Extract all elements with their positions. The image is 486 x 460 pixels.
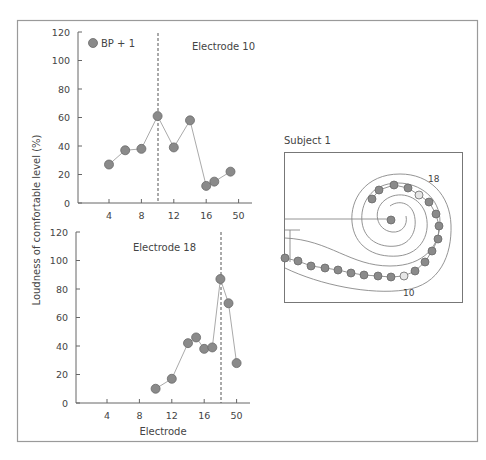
chart-electrode-18: 020406080100120 48121650 Electrode 18 El… — [50, 227, 250, 438]
y-tick-label: 100 — [50, 255, 68, 266]
data-point — [210, 177, 219, 186]
electrode-contact — [432, 210, 440, 218]
data-point — [153, 112, 162, 121]
data-point — [186, 116, 195, 125]
legend-marker — [89, 39, 98, 48]
cochlea-diagram: Subject 1 18 10 — [281, 135, 463, 303]
electrode-contact — [434, 235, 442, 243]
x-tick-label: 50 — [233, 210, 245, 221]
data-point — [105, 160, 114, 169]
y-tick-label: 60 — [56, 312, 68, 323]
y-tick-label: 0 — [62, 398, 68, 409]
electrode-contact — [411, 267, 419, 275]
electrode-array — [281, 181, 443, 281]
electrode-contact — [281, 254, 289, 262]
data-point — [192, 333, 201, 342]
y-tick-label: 20 — [56, 369, 68, 380]
data-series — [105, 112, 236, 191]
data-point — [169, 143, 178, 152]
electrode-contact — [404, 184, 412, 192]
electrode-contact — [368, 195, 376, 203]
y-tick-label: 60 — [58, 112, 70, 123]
electrode-contact — [294, 257, 302, 265]
figure-frame — [18, 21, 478, 442]
electrode-contact — [347, 269, 355, 277]
y-axis: 020406080100120 — [50, 227, 80, 409]
x-tick-label: 4 — [106, 210, 112, 221]
electrode-contact — [387, 273, 395, 281]
chart-electrode-10: 020406080100120 48121650 BP + 1 Electrod… — [52, 27, 255, 222]
data-point — [208, 343, 217, 352]
electrode-contact-highlighted — [415, 191, 423, 199]
figure: Loudness of comfortable level (%) 020406… — [0, 0, 486, 460]
electrode-contact — [375, 186, 383, 194]
data-point — [167, 374, 176, 383]
y-tick-label: 40 — [58, 141, 70, 152]
electrode-label-18: 18 — [428, 174, 440, 184]
y-tick-label: 100 — [52, 55, 70, 66]
electrode-contact — [374, 272, 382, 280]
data-point — [137, 144, 146, 153]
y-tick-label: 40 — [56, 341, 68, 352]
data-point — [121, 146, 130, 155]
electrode-contact — [360, 271, 368, 279]
y-tick-label: 20 — [58, 169, 70, 180]
electrode-contact-apical — [387, 216, 395, 224]
x-axis-label: Electrode — [139, 426, 186, 437]
data-point — [226, 167, 235, 176]
data-point — [224, 299, 233, 308]
y-tick-label: 80 — [58, 84, 70, 95]
y-tick-label: 120 — [50, 227, 68, 238]
x-tick-label: 8 — [138, 210, 144, 221]
data-point — [184, 339, 193, 348]
x-tick-label: 4 — [104, 410, 110, 421]
data-point — [200, 344, 209, 353]
x-axis: 48121650 — [76, 399, 250, 421]
x-tick-label: 8 — [136, 410, 142, 421]
electrode-contact — [307, 262, 315, 270]
subject-label: Subject 1 — [284, 135, 331, 146]
y-axis-label: Loudness of comfortable level (%) — [31, 134, 42, 305]
y-tick-label: 0 — [64, 198, 70, 209]
y-tick-label: 80 — [56, 284, 68, 295]
data-point — [151, 384, 160, 393]
chart-title: Electrode 10 — [192, 41, 255, 52]
legend-label: BP + 1 — [101, 38, 135, 49]
x-tick-label: 16 — [198, 410, 210, 421]
electrode-contact — [321, 264, 329, 272]
y-axis: 020406080100120 — [52, 27, 82, 209]
chart-title: Electrode 18 — [133, 242, 196, 253]
data-point — [232, 359, 241, 368]
data-series — [151, 275, 241, 394]
electrode-contact — [390, 181, 398, 189]
electrode-contact — [334, 266, 342, 274]
x-tick-label: 12 — [168, 210, 180, 221]
x-tick-label: 16 — [200, 210, 212, 221]
electrode-label-10: 10 — [403, 288, 415, 298]
electrode-contact-highlighted — [400, 272, 408, 280]
y-tick-label: 120 — [52, 27, 70, 38]
x-tick-label: 12 — [166, 410, 178, 421]
data-point — [216, 275, 225, 284]
data-point — [202, 181, 211, 190]
electrode-contact — [435, 222, 443, 230]
electrode-contact — [421, 258, 429, 266]
electrode-contact — [425, 198, 433, 206]
x-axis: 48121650 — [78, 199, 252, 221]
x-tick-label: 50 — [231, 410, 243, 421]
electrode-contact — [428, 247, 436, 255]
